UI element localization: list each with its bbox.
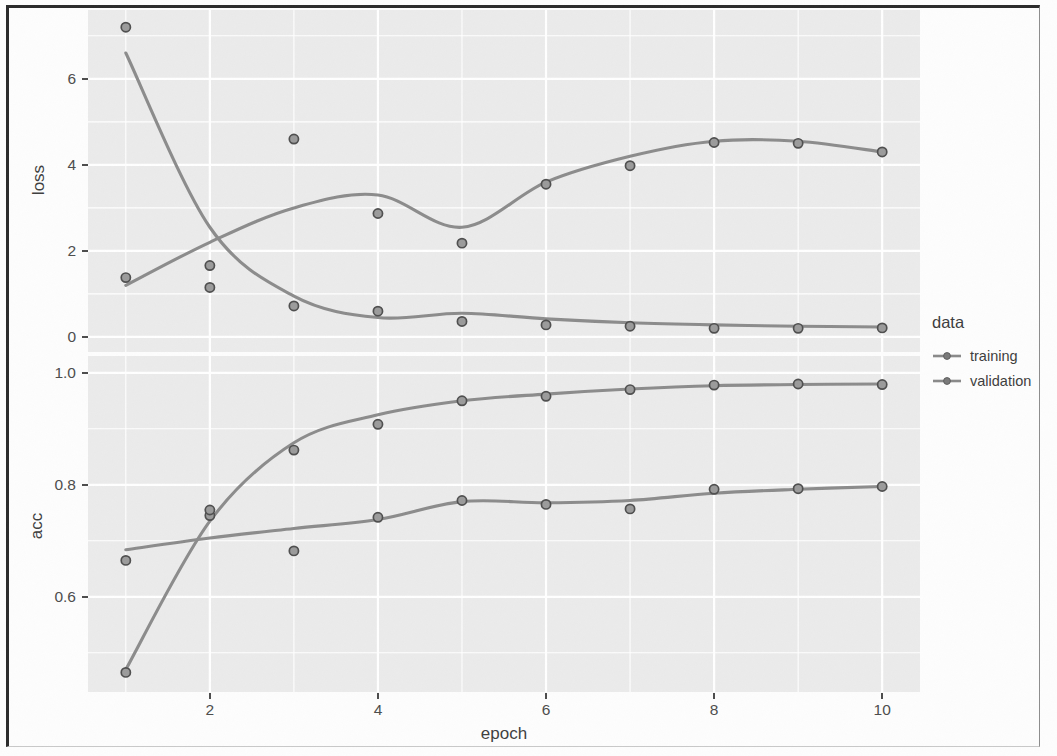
data-point [121, 23, 130, 32]
data-point [710, 138, 719, 147]
plot-area: 0246 0.60.81.0 246810 loss acc epoch dat… [0, 0, 1057, 756]
series-line-training [126, 384, 882, 670]
x-tick-mark [209, 693, 211, 699]
data-point [373, 307, 382, 316]
data-point [289, 546, 298, 555]
y-tick-mark [82, 372, 88, 374]
x-tick-mark [377, 693, 379, 699]
data-point [878, 482, 887, 491]
series-line-validation [126, 140, 882, 286]
x-tick-mark [881, 693, 883, 699]
data-point [794, 379, 803, 388]
data-point [121, 273, 130, 282]
y-tick-mark [82, 596, 88, 598]
legend-title: data [932, 313, 1050, 332]
y-axis-title-loss: loss [29, 135, 49, 225]
x-tick-label: 2 [206, 701, 215, 719]
y-tick-label: 0.8 [54, 476, 76, 494]
data-point [457, 396, 466, 405]
data-point [710, 324, 719, 333]
data-point [878, 380, 887, 389]
data-point [541, 392, 550, 401]
data-point [373, 420, 382, 429]
y-axis-title-acc: acc [27, 481, 47, 571]
y-tick-mark [82, 336, 88, 338]
data-point [625, 161, 634, 170]
data-point [541, 320, 550, 329]
data-point [289, 445, 298, 454]
y-tick-mark [82, 164, 88, 166]
data-point [373, 513, 382, 522]
data-point [121, 556, 130, 565]
y-tick-label: 6 [67, 70, 76, 88]
data-point [625, 322, 634, 331]
data-point [205, 261, 214, 270]
data-point [794, 484, 803, 493]
data-point [121, 668, 130, 677]
data-point [205, 283, 214, 292]
y-tick-mark [82, 78, 88, 80]
panel-loss [88, 10, 920, 352]
data-point [205, 505, 214, 514]
y-tick-label: 2 [67, 242, 76, 260]
data-point [541, 500, 550, 509]
data-point [625, 385, 634, 394]
legend: data training validation [932, 313, 1050, 393]
x-tick-label: 6 [542, 701, 551, 719]
data-point [878, 323, 887, 332]
data-point [289, 301, 298, 310]
x-tick-label: 4 [374, 701, 383, 719]
data-point [457, 317, 466, 326]
data-point [710, 485, 719, 494]
y-tick-label: 0 [67, 328, 76, 346]
panel-acc [88, 356, 920, 692]
x-tick-label: 8 [710, 701, 719, 719]
x-tick-mark [713, 693, 715, 699]
x-tick-mark [545, 693, 547, 699]
x-tick-label: 10 [874, 701, 891, 719]
data-point [710, 381, 719, 390]
chart-page: 0246 0.60.81.0 246810 loss acc epoch dat… [0, 0, 1057, 756]
legend-key-validation-icon [932, 370, 962, 392]
data-point [457, 496, 466, 505]
x-axis-title: epoch [88, 724, 920, 744]
legend-label-training: training [970, 348, 1018, 364]
legend-key-training-icon [932, 345, 962, 367]
series-line-training [126, 53, 882, 327]
y-tick-label: 4 [67, 156, 76, 174]
data-point [373, 209, 382, 218]
legend-item-training[interactable]: training [932, 343, 1050, 368]
y-tick-mark [82, 250, 88, 252]
y-tick-mark [82, 484, 88, 486]
legend-label-validation: validation [970, 373, 1031, 389]
data-point [794, 324, 803, 333]
data-point [541, 180, 550, 189]
data-point [878, 147, 887, 156]
y-tick-label: 1.0 [54, 364, 76, 382]
data-point [794, 139, 803, 148]
legend-item-validation[interactable]: validation [932, 368, 1050, 393]
data-point [289, 134, 298, 143]
data-point [625, 504, 634, 513]
y-tick-label: 0.6 [54, 588, 76, 606]
data-point [457, 239, 466, 248]
